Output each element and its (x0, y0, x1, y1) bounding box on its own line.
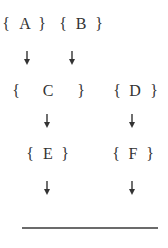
node-f-label: F (129, 146, 138, 162)
node-a-label: A (19, 16, 31, 32)
node-c-label: C (43, 83, 54, 99)
baseline-divider (22, 227, 158, 229)
node-d-open-brace: { (113, 83, 121, 99)
node-e-open-brace: { (26, 146, 34, 162)
node-a-open-brace: { (2, 16, 10, 32)
node-b-close-brace: } (95, 16, 103, 32)
node-f-open-brace: { (112, 146, 120, 162)
node-a-close-brace: } (38, 16, 46, 32)
node-b-label: B (76, 16, 87, 32)
node-f-close-brace: } (146, 146, 154, 162)
arrow-down-icon (127, 181, 137, 195)
node-e-label: E (43, 146, 53, 162)
arrow-down-icon (67, 51, 77, 65)
node-d-label: D (129, 83, 141, 99)
arrow-down-icon (22, 51, 32, 65)
arrow-down-icon (42, 114, 52, 128)
node-b-open-brace: { (59, 16, 67, 32)
node-c-close-brace: } (77, 83, 85, 99)
node-c-open-brace: { (12, 83, 20, 99)
arrow-down-icon (42, 181, 52, 195)
arrow-down-icon (127, 114, 137, 128)
node-e-close-brace: } (61, 146, 69, 162)
node-d-close-brace: } (150, 83, 158, 99)
